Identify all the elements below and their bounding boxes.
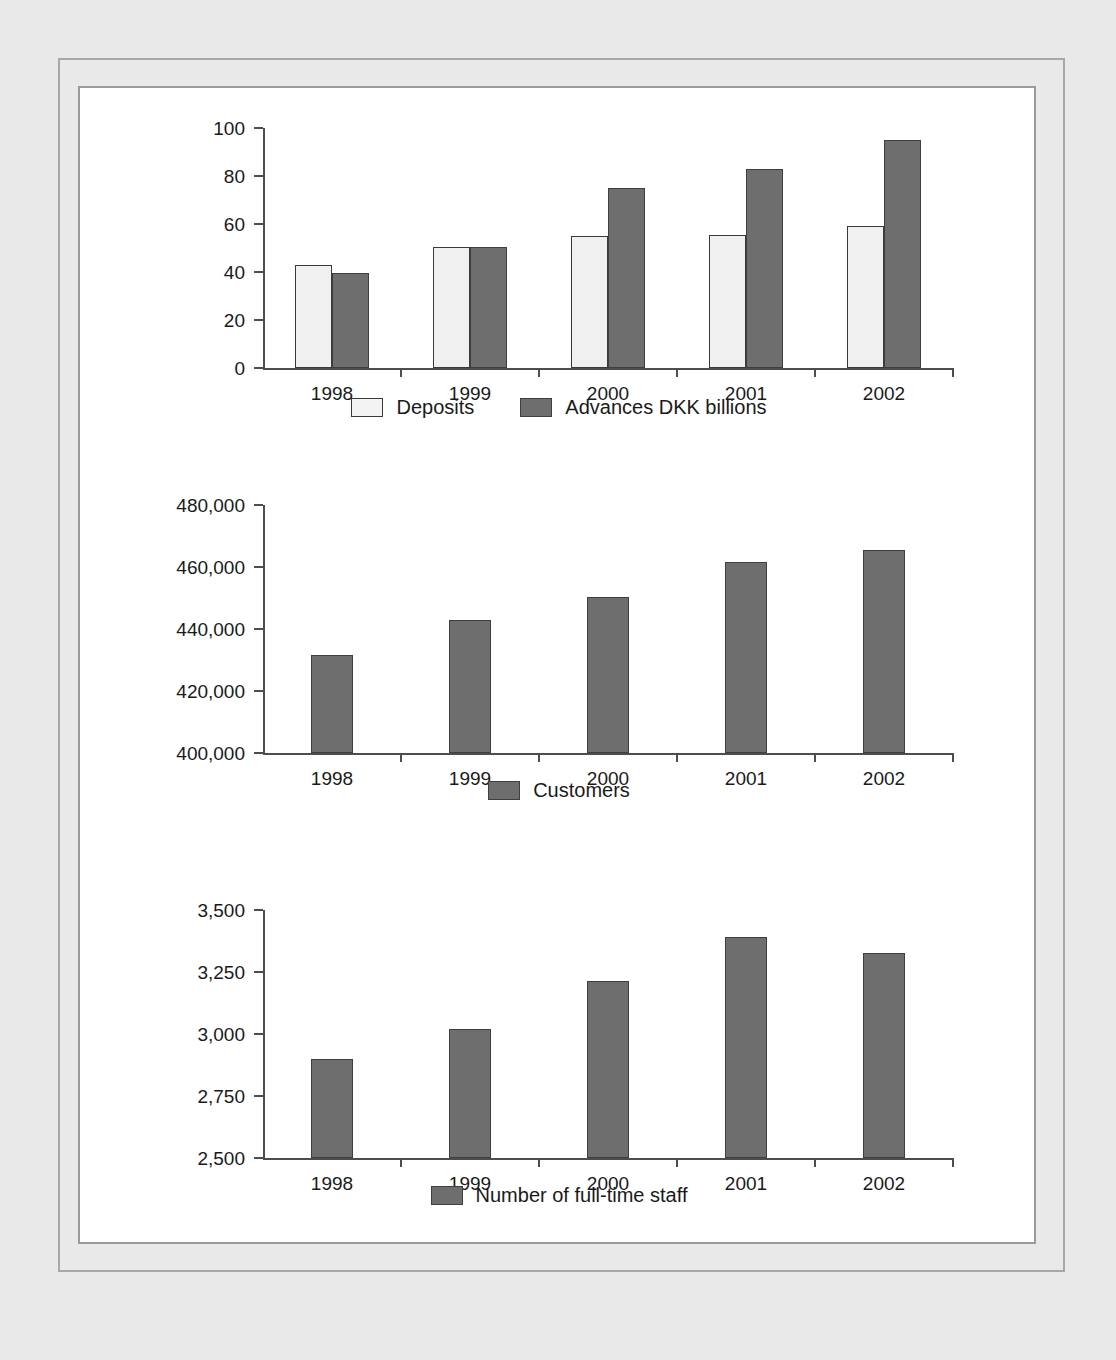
chart-legend: Customers: [80, 779, 1038, 802]
y-axis-tick: [254, 909, 263, 911]
y-axis-tick-label: 3,250: [80, 963, 245, 982]
x-axis-tick: [676, 1158, 678, 1167]
y-axis-tick-label: 100: [80, 119, 245, 138]
y-axis-tick: [254, 367, 263, 369]
y-axis-tick: [254, 752, 263, 754]
y-axis-line: [263, 128, 265, 368]
page-background: 02040608010019981999200020012002Deposits…: [0, 0, 1116, 1360]
x-axis-tick: [538, 1158, 540, 1167]
y-axis-tick-label: 0: [80, 359, 245, 378]
bar: [311, 1059, 353, 1158]
chart-full-time-staff: 2,5002,7503,0003,2503,500199819992000200…: [80, 888, 1038, 1233]
y-axis-tick-label: 20: [80, 311, 245, 330]
x-axis-line: [263, 753, 953, 755]
y-axis-tick: [254, 628, 263, 630]
y-axis-tick: [254, 271, 263, 273]
y-axis-tick: [254, 971, 263, 973]
y-axis-tick-label: 40: [80, 263, 245, 282]
x-axis-tick: [400, 368, 402, 377]
bar: [449, 620, 491, 753]
bar: [746, 169, 783, 368]
x-axis-line: [263, 368, 953, 370]
bar: [587, 981, 629, 1158]
legend-label: Deposits: [396, 396, 474, 419]
x-axis-tick: [814, 1158, 816, 1167]
legend-item[interactable]: Deposits: [351, 396, 474, 419]
legend-swatch-icon: [351, 398, 383, 417]
bar: [332, 273, 369, 368]
bar: [884, 140, 921, 368]
chart-legend: Number of full-time staff: [80, 1184, 1038, 1207]
x-axis-tick: [814, 368, 816, 377]
bar: [311, 655, 353, 753]
y-axis-tick: [254, 223, 263, 225]
y-axis-tick-label: 80: [80, 167, 245, 186]
x-axis-tick: [400, 753, 402, 762]
y-axis-tick: [254, 1033, 263, 1035]
bar: [295, 265, 332, 368]
y-axis-tick: [254, 1095, 263, 1097]
bar: [863, 550, 905, 753]
x-axis-tick: [676, 753, 678, 762]
legend-swatch-icon: [431, 1186, 463, 1205]
legend-item[interactable]: Customers: [488, 779, 630, 802]
x-axis-line: [263, 1158, 953, 1160]
y-axis-tick-label: 60: [80, 215, 245, 234]
bar: [725, 562, 767, 753]
y-axis-line: [263, 910, 265, 1158]
x-axis-tick: [676, 368, 678, 377]
bar: [709, 235, 746, 368]
y-axis-tick: [254, 566, 263, 568]
y-axis-tick: [254, 175, 263, 177]
bar: [587, 597, 629, 753]
x-axis-tick: [538, 368, 540, 377]
y-axis-tick-label: 420,000: [80, 682, 245, 701]
y-axis-tick: [254, 690, 263, 692]
legend-item[interactable]: Advances DKK billions: [520, 396, 766, 419]
bar: [847, 226, 884, 368]
legend-label: Number of full-time staff: [476, 1184, 688, 1207]
chart-deposits-advances: 02040608010019981999200020012002Deposits…: [80, 98, 1038, 448]
bar: [863, 953, 905, 1158]
legend-swatch-icon: [488, 781, 520, 800]
x-axis-tick: [538, 753, 540, 762]
x-axis-tick: [952, 1158, 954, 1167]
legend-label: Advances DKK billions: [565, 396, 766, 419]
y-axis-tick-label: 3,000: [80, 1025, 245, 1044]
y-axis-tick-label: 460,000: [80, 558, 245, 577]
y-axis-tick-label: 480,000: [80, 496, 245, 515]
y-axis-tick-label: 2,750: [80, 1087, 245, 1106]
legend-label: Customers: [533, 779, 630, 802]
y-axis-tick-label: 3,500: [80, 901, 245, 920]
x-axis-tick: [952, 753, 954, 762]
y-axis-tick: [254, 319, 263, 321]
x-axis-tick: [400, 1158, 402, 1167]
bar: [449, 1029, 491, 1158]
x-axis-tick: [952, 368, 954, 377]
legend-item[interactable]: Number of full-time staff: [431, 1184, 688, 1207]
y-axis-tick: [254, 504, 263, 506]
y-axis-tick-label: 2,500: [80, 1149, 245, 1168]
y-axis-line: [263, 505, 265, 753]
x-axis-tick: [814, 753, 816, 762]
y-axis-tick-label: 440,000: [80, 620, 245, 639]
y-axis-tick: [254, 127, 263, 129]
bar: [470, 247, 507, 368]
bar: [571, 236, 608, 368]
bar: [608, 188, 645, 368]
y-axis-tick-label: 400,000: [80, 744, 245, 763]
bar: [433, 247, 470, 368]
chart-customers: 400,000420,000440,000460,000480,00019981…: [80, 483, 1038, 828]
inner-frame-panel: 02040608010019981999200020012002Deposits…: [78, 86, 1036, 1244]
bar: [725, 937, 767, 1158]
y-axis-tick: [254, 1157, 263, 1159]
legend-swatch-icon: [520, 398, 552, 417]
chart-legend: DepositsAdvances DKK billions: [80, 396, 1038, 419]
